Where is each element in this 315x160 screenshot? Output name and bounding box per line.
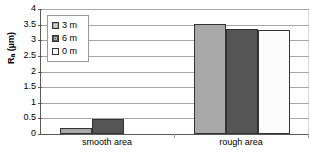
y-axis-tick-label: 3.5: [14, 20, 36, 29]
x-axis-end-tick-mark: [308, 134, 309, 138]
x-axis-category-label: smooth area: [40, 137, 174, 147]
y-axis-tick-label: 1.5: [14, 82, 36, 91]
bar-chart: Ra (µm) 00.511.522.533.54 smooth arearou…: [0, 0, 315, 160]
legend-swatch-inner: [54, 50, 57, 53]
bar: [226, 29, 258, 134]
x-axis-category-label: rough area: [174, 137, 308, 147]
legend-item: 3 m: [52, 19, 83, 32]
y-axis-tick-label: 0: [14, 129, 36, 138]
gridline: [41, 134, 309, 135]
y-axis-tick-label: 1: [14, 98, 36, 107]
legend-swatch-inner: [54, 37, 57, 40]
legend-label: 0 m: [62, 47, 77, 56]
y-axis-tick-label: 4: [14, 4, 36, 13]
x-axis-tick-mark: [174, 134, 175, 138]
legend-swatch-icon: [52, 35, 59, 42]
bar: [92, 119, 124, 134]
bar: [194, 24, 226, 134]
legend-swatch-icon: [52, 22, 59, 29]
bar: [60, 128, 92, 134]
legend-label: 6 m: [62, 34, 77, 43]
y-axis-tick-mark: [38, 134, 42, 135]
legend-label: 3 m: [62, 21, 77, 30]
legend: 3 m6 m0 m: [47, 15, 89, 62]
y-axis-tick-label: 0.5: [14, 113, 36, 122]
bar: [258, 30, 290, 134]
legend-swatch-icon: [52, 48, 59, 55]
legend-item: 6 m: [52, 32, 83, 45]
x-axis-category-labels: smooth arearough area: [40, 137, 309, 157]
y-axis-tick-label: 2.5: [14, 51, 36, 60]
y-axis-tick-labels: 00.511.522.533.54: [14, 0, 36, 160]
legend-swatch-inner: [54, 24, 57, 27]
y-axis-tick-label: 2: [14, 67, 36, 76]
y-axis-tick-label: 3: [14, 35, 36, 44]
legend-item: 0 m: [52, 45, 83, 58]
